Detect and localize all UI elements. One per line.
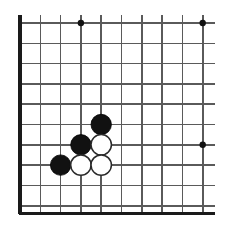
grid-lines-group xyxy=(20,15,215,214)
go-board-canvas[interactable] xyxy=(0,0,228,233)
stone-white-stone-1[interactable] xyxy=(91,135,111,155)
stone-white-stone-3[interactable] xyxy=(91,155,111,175)
stone-black-stone-3[interactable] xyxy=(50,155,70,175)
stone-black-stone-1[interactable] xyxy=(91,114,111,134)
stone-white-stone-2[interactable] xyxy=(71,155,91,175)
star-point-top-left-hoshi xyxy=(78,20,84,26)
star-point-top-right-hoshi xyxy=(200,20,206,26)
stone-black-stone-2[interactable] xyxy=(71,135,91,155)
go-board-diagram xyxy=(0,0,228,233)
board-border-group xyxy=(19,15,216,214)
star-point-right-side-hoshi xyxy=(200,142,206,148)
